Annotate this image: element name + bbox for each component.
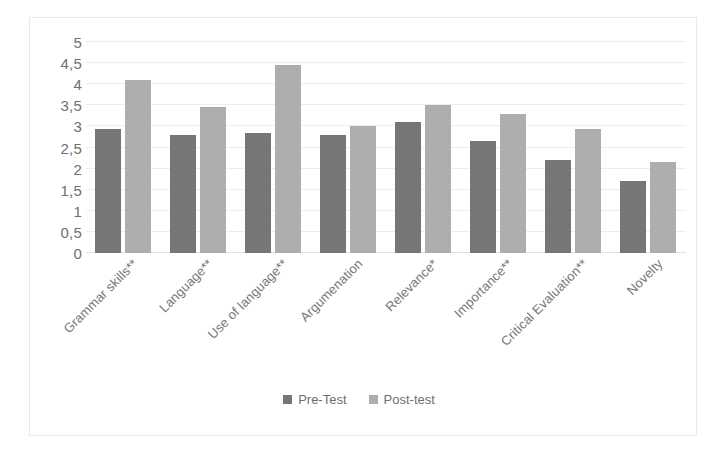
y-axis-tick-label: 2 (30, 162, 82, 177)
y-axis-tick-label: 4,5 (30, 56, 82, 71)
legend-item[interactable]: Post-test (369, 392, 435, 407)
bar-post-test[interactable] (125, 80, 151, 253)
y-axis-tick-label: 1 (30, 204, 82, 219)
bar-group (241, 42, 316, 253)
bar-post-test[interactable] (200, 107, 226, 253)
y-axis-tick-label: 2,5 (30, 141, 82, 156)
bar-pre-test[interactable] (470, 141, 496, 253)
bar-group (166, 42, 241, 253)
bar-group (316, 42, 391, 253)
bar-pre-test[interactable] (545, 160, 571, 253)
y-axis-tick-label: 3,5 (30, 98, 82, 113)
bar-post-test[interactable] (500, 114, 526, 253)
legend-item[interactable]: Pre-Test (283, 392, 346, 407)
bar-pre-test[interactable] (95, 129, 121, 253)
bar-pre-test[interactable] (620, 181, 646, 253)
y-axis-tick-label: 5 (30, 35, 82, 50)
bars-layer (86, 42, 686, 253)
bar-post-test[interactable] (350, 126, 376, 253)
y-axis: 00,511,522,533,544,55 (30, 30, 82, 265)
bar-group (541, 42, 616, 253)
y-axis-tick-label: 1,5 (30, 183, 82, 198)
y-axis-tick-label: 0,5 (30, 225, 82, 240)
bar-group (391, 42, 466, 253)
bar-post-test[interactable] (575, 129, 601, 253)
legend-label: Post-test (384, 392, 435, 407)
bar-group (466, 42, 541, 253)
chart-legend: Pre-TestPost-test (0, 392, 718, 407)
y-axis-tick-label: 3 (30, 119, 82, 134)
bar-pre-test[interactable] (170, 135, 196, 253)
bar-pre-test[interactable] (395, 122, 421, 253)
bar-post-test[interactable] (650, 162, 676, 253)
x-axis-category-labels: Grammar skills**Language**Use of languag… (0, 256, 718, 376)
y-axis-tick-label: 4 (30, 77, 82, 92)
bar-post-test[interactable] (275, 65, 301, 253)
legend-swatch-icon (283, 395, 292, 404)
legend-swatch-icon (369, 395, 378, 404)
legend-label: Pre-Test (298, 392, 346, 407)
bar-post-test[interactable] (425, 105, 451, 253)
bar-group (91, 42, 166, 253)
bar-pre-test[interactable] (245, 133, 271, 253)
bar-chart-figure: 00,511,522,533,544,55 Grammar skills**La… (0, 0, 718, 454)
bar-pre-test[interactable] (320, 135, 346, 253)
bar-group (616, 42, 691, 253)
